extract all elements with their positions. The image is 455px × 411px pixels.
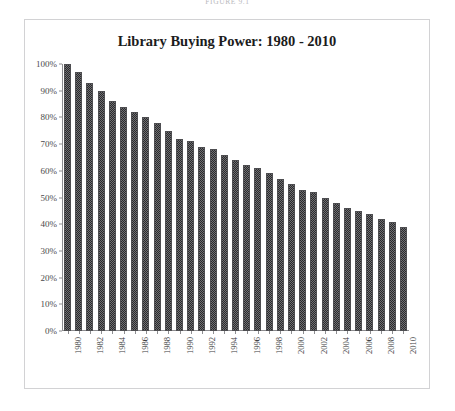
bar [400,227,407,331]
y-axis-tick-label: 90% [41,86,58,96]
x-axis-tick-label: 1984 [112,329,122,346]
bar [176,139,183,331]
bar [98,91,105,331]
chart-title: Library Buying Power: 1980 - 2010 [24,33,430,50]
bar-slot: 2010 [398,64,409,331]
bar [344,208,351,331]
bar-slot [73,64,84,331]
bar [366,214,373,331]
bar-slot: 1988 [152,64,163,331]
bar-slot: 2000 [286,64,297,331]
y-axis-tick-label: 30% [41,246,58,256]
x-axis-tick-mark [258,331,259,334]
bar [232,160,239,331]
bar [243,165,250,331]
bar [64,64,71,331]
bar-slot [275,64,286,331]
x-axis-tick-mark [79,331,80,334]
bar-slot: 1996 [241,64,252,331]
y-axis-tick-label: 10% [41,299,58,309]
x-axis-tick-label: 2002 [314,329,324,346]
y-axis-tick-label: 80% [41,112,58,122]
bar [198,147,205,331]
bar [288,184,295,331]
bar [355,211,362,331]
x-axis-tick-mark [325,331,326,334]
bar-slot: 1998 [263,64,274,331]
bar-slot [319,64,330,331]
figure-caption: FIGURE 9.1 [0,0,455,6]
bar [165,131,172,331]
bar [389,222,396,331]
bar [187,141,194,331]
bar-slot [163,64,174,331]
y-axis-tick-label: 70% [41,139,58,149]
y-axis-tick-label: 20% [41,273,58,283]
bar [221,155,228,331]
bar-slot: 2008 [375,64,386,331]
bar-slot [297,64,308,331]
x-axis-tick-label: 1992 [202,329,212,346]
bar-slot: 1994 [219,64,230,331]
bar-slot [118,64,129,331]
bar [142,117,149,331]
y-axis-tick-label: 60% [41,166,58,176]
bar-slot [185,64,196,331]
figure-page: FIGURE 9.1 Library Buying Power: 1980 - … [0,0,455,411]
bar-slot [140,64,151,331]
x-axis-tick-mark [347,331,348,334]
bar [120,107,127,331]
x-axis-tick-label: 1980 [68,329,78,346]
bar-slot: 1984 [107,64,118,331]
bar [266,173,273,331]
x-axis-tick-label: 1996 [247,329,257,346]
x-axis-tick-label: 1988 [157,329,167,346]
x-axis-tick-label: 2010 [403,329,413,346]
bar-slot: 1990 [174,64,185,331]
bar [333,203,340,331]
bar-slot [208,64,219,331]
x-axis-tick-label: 1982 [90,329,100,346]
y-axis-tick-label: 50% [41,193,58,203]
x-axis-tick-label: 2000 [291,329,301,346]
y-axis-tick-label: 100% [36,59,57,69]
bar [86,83,93,331]
x-axis-tick-mark [235,331,236,334]
x-axis-tick-mark [191,331,192,334]
x-axis-tick-mark [280,331,281,334]
x-axis-tick-label: 1994 [224,329,234,346]
bar-slot [252,64,263,331]
bar-slot [96,64,107,331]
x-axis-tick-mark [213,331,214,334]
x-axis-tick-mark [168,331,169,334]
y-axis-tick-label: 0% [45,326,57,336]
bar-series: 1980198219841986198819901992199419961998… [62,64,409,331]
bar [75,72,82,331]
bar-slot: 2006 [353,64,364,331]
bar [277,179,284,331]
x-axis-tick-label: 2008 [381,329,391,346]
x-axis-tick-label: 2006 [359,329,369,346]
x-axis-tick-mark [370,331,371,334]
x-axis-tick-mark [303,331,304,334]
bar [254,168,261,331]
bar [210,149,217,331]
bar-slot [364,64,375,331]
bar-slot: 1982 [84,64,95,331]
bar [310,192,317,331]
x-axis-tick-mark [392,331,393,334]
bar-slot [342,64,353,331]
x-axis-tick-mark [124,331,125,334]
bar [378,219,385,331]
bar-slot [230,64,241,331]
x-axis-tick-label: 1986 [135,329,145,346]
bar-slot: 1992 [196,64,207,331]
bar [322,198,329,332]
bar [299,190,306,332]
x-axis-tick-label: 1990 [180,329,190,346]
bar-slot: 1980 [62,64,73,331]
bar-slot: 1986 [129,64,140,331]
x-axis-tick-mark [146,331,147,334]
bar-slot [387,64,398,331]
bar-slot: 2004 [331,64,342,331]
